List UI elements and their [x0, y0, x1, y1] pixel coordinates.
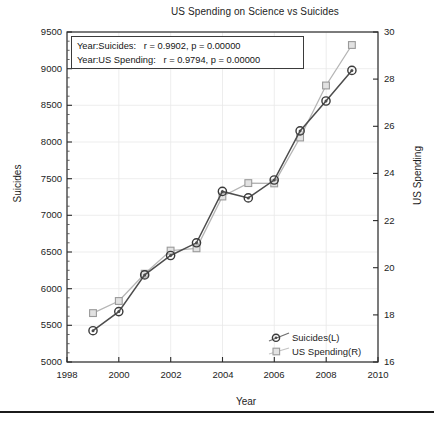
y-left-tick-8000: 8000 [22, 136, 62, 147]
y-left-tick-5000: 5000 [22, 356, 62, 367]
y-right-tick-20: 20 [384, 262, 424, 273]
y-right-tick-18: 18 [384, 309, 424, 320]
y-left-tick-7500: 7500 [22, 173, 62, 184]
y-left-tick-9500: 9500 [22, 26, 62, 37]
x-axis-label-text: Year [236, 396, 256, 407]
chart-legend: Suicides(L) US Spending(R) [268, 330, 376, 358]
chart-title-text: US Spending on Science vs Suicides [171, 6, 339, 17]
x-axis-label: Year [0, 396, 434, 407]
y-axis-right-label: US Spending [412, 121, 423, 231]
legend-item-us-spending: US Spending(R) [268, 344, 376, 358]
y-right-tick-16: 16 [384, 356, 424, 367]
y-left-tick-5500: 5500 [22, 319, 62, 330]
chart-figure: US Spending on Science vs Suicides Year:… [0, 0, 434, 424]
y-right-tick-28: 28 [384, 73, 424, 84]
annotation-line-suicides: Year:Suicides: r = 0.9902, p = 0.00000 [77, 39, 303, 53]
y-left-tick-8500: 8500 [22, 99, 62, 110]
correlation-annotation-box: Year:Suicides: r = 0.9902, p = 0.00000 Y… [71, 36, 304, 69]
x-tick-2004: 2004 [198, 369, 248, 380]
legend-circle-marker-icon [268, 330, 290, 344]
y-left-tick-6500: 6500 [22, 246, 62, 257]
legend-label-us-spending: US Spending(R) [290, 346, 361, 357]
y-left-tick-9000: 9000 [22, 63, 62, 74]
bottom-divider [0, 411, 434, 413]
x-tick-2010: 2010 [353, 369, 403, 380]
chart-title: US Spending on Science vs Suicides [0, 6, 434, 17]
y-left-tick-7000: 7000 [22, 209, 62, 220]
x-tick-2000: 2000 [94, 369, 144, 380]
y-left-tick-6000: 6000 [22, 283, 62, 294]
x-tick-2006: 2006 [249, 369, 299, 380]
x-tick-1998: 1998 [42, 369, 92, 380]
annotation-line-spending: Year:US Spending: r = 0.9794, p = 0.0000… [77, 53, 303, 67]
y-axis-left-label: Suicides [12, 144, 23, 224]
x-tick-2008: 2008 [301, 369, 351, 380]
legend-label-suicides: Suicides(L) [290, 332, 340, 343]
legend-square-marker-icon [268, 344, 290, 358]
legend-item-suicides: Suicides(L) [268, 330, 376, 344]
y-right-tick-30: 30 [384, 26, 424, 37]
x-tick-2002: 2002 [146, 369, 196, 380]
